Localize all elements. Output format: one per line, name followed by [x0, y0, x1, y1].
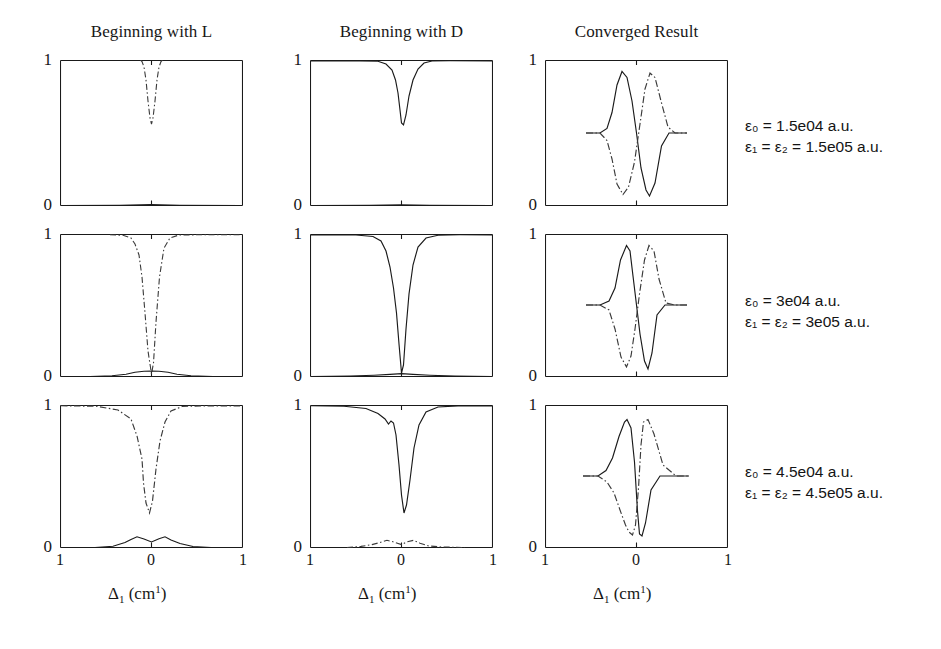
plot-svg-r1c3	[545, 60, 728, 206]
series-solid-absorption	[311, 406, 492, 513]
y-tick-top-r2c2: 1	[284, 224, 302, 244]
plot-panel-r3c3	[545, 405, 728, 548]
x-tick-right-c3: 1	[718, 551, 738, 569]
row-1-eps12-line: ε₁ = ε₂ = 1.5e05 a.u.	[745, 136, 883, 157]
axes-frame	[311, 406, 493, 548]
x-tick-center-c1: 0	[141, 551, 161, 569]
y-tick-bottom-r1c3: 0	[519, 195, 537, 215]
y-tick-top-r3c2: 1	[284, 395, 302, 415]
plot-svg-r2c1	[60, 234, 243, 377]
plot-svg-r3c2	[310, 405, 493, 548]
x-tick-center-c3: 0	[626, 551, 646, 569]
column-title-2: Beginning with D	[310, 22, 493, 42]
y-tick-top-r3c3: 1	[519, 395, 537, 415]
x-axis-label-c3: Δ1 (cm1)	[593, 583, 651, 605]
series-dashdot-low	[347, 540, 465, 547]
plot-panel-r2c2	[310, 234, 493, 377]
unit-close: )	[411, 584, 417, 603]
series-dashdot	[61, 406, 242, 513]
figure-canvas: Beginning with L Beginning with D Conver…	[0, 0, 941, 649]
y-tick-top-r3c1: 1	[34, 395, 52, 415]
y-tick-top-r2c1: 1	[34, 224, 52, 244]
plot-svg-r1c2	[310, 60, 493, 206]
x-tick-right-c2: 1	[483, 551, 503, 569]
series-solid-double-bump	[95, 537, 211, 548]
y-tick-bottom-r2c1: 0	[34, 366, 52, 386]
x-tick-center-c2: 0	[391, 551, 411, 569]
y-tick-top-r1c2: 1	[284, 50, 302, 70]
unit-close: )	[161, 584, 167, 603]
plot-svg-r3c3	[545, 405, 728, 548]
plot-panel-r3c1	[60, 405, 243, 548]
column-title-3: Converged Result	[545, 22, 728, 42]
x-tick-left-c3: 1	[535, 551, 555, 569]
plot-svg-r2c2	[310, 234, 493, 377]
axes-frame	[546, 406, 728, 548]
row-2-eps12-line: ε₁ = ε₂ = 3e05 a.u.	[745, 311, 870, 332]
y-tick-bottom-r2c2: 0	[284, 366, 302, 386]
y-tick-bottom-r1c2: 0	[284, 195, 302, 215]
x-tick-left-c2: 1	[300, 551, 320, 569]
plot-svg-r3c1	[60, 405, 243, 548]
plot-svg-r2c3	[545, 234, 728, 377]
unit-open: (cm	[124, 584, 155, 603]
plot-panel-r1c3	[545, 60, 728, 206]
series-solid-dispersive	[586, 246, 687, 370]
series-solid-absorption	[311, 61, 492, 125]
x-axis-label-c2: Δ1 (cm1)	[358, 583, 416, 605]
plot-panel-r2c1	[60, 234, 243, 377]
delta-symbol: Δ	[593, 584, 604, 603]
axes-frame	[311, 61, 493, 206]
x-tick-right-c1: 1	[233, 551, 253, 569]
axes-frame	[61, 235, 243, 377]
plot-panel-r1c1	[60, 60, 243, 206]
y-tick-top-r1c3: 1	[519, 50, 537, 70]
x-axis-label-c1: Δ1 (cm1)	[108, 583, 166, 605]
plot-panel-r3c2	[310, 405, 493, 548]
row-annotation-3: ε₀ = 4.5e04 a.u. ε₁ = ε₂ = 4.5e05 a.u.	[745, 461, 883, 503]
unit-open: (cm	[609, 584, 640, 603]
unit-close: )	[646, 584, 652, 603]
column-title-1: Beginning with L	[60, 22, 243, 42]
x-tick-left-c1: 1	[50, 551, 70, 569]
row-3-eps0-line: ε₀ = 4.5e04 a.u.	[745, 461, 883, 482]
axes-frame	[61, 406, 243, 548]
row-annotation-1: ε₀ = 1.5e04 a.u. ε₁ = ε₂ = 1.5e05 a.u.	[745, 115, 883, 157]
row-3-eps12-line: ε₁ = ε₂ = 4.5e05 a.u.	[745, 482, 883, 503]
series-solid-dispersive	[583, 420, 689, 537]
plot-panel-r1c2	[310, 60, 493, 206]
axes-frame	[311, 235, 493, 377]
unit-open: (cm	[374, 584, 405, 603]
row-annotation-2: ε₀ = 3e04 a.u. ε₁ = ε₂ = 3e05 a.u.	[745, 290, 870, 332]
row-2-eps0-line: ε₀ = 3e04 a.u.	[745, 290, 870, 311]
y-tick-top-r2c3: 1	[519, 224, 537, 244]
y-tick-bottom-r1c1: 0	[34, 195, 52, 215]
delta-symbol: Δ	[358, 584, 369, 603]
y-tick-bottom-r2c3: 0	[519, 366, 537, 386]
delta-symbol: Δ	[108, 584, 119, 603]
row-1-eps0-line: ε₀ = 1.5e04 a.u.	[745, 115, 883, 136]
axes-frame	[61, 61, 243, 206]
series-solid-absorption	[311, 235, 492, 373]
series-dashdot	[141, 60, 163, 124]
y-tick-top-r1c1: 1	[34, 50, 52, 70]
series-dashdot	[110, 235, 242, 374]
plot-panel-r2c3	[545, 234, 728, 377]
plot-svg-r1c1	[60, 60, 243, 206]
